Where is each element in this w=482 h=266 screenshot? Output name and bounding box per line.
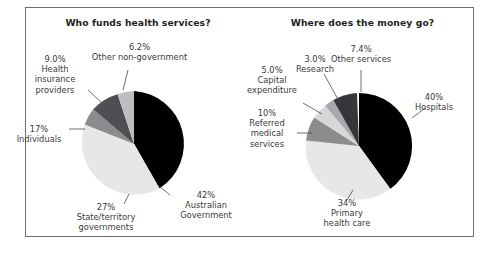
label-state-pct: 27%: [60, 202, 152, 212]
label-primary-pct: 34%: [305, 198, 389, 208]
label-research-pct: 3.0%: [290, 54, 340, 64]
label-individuals-pct: 17%: [10, 124, 68, 134]
label-referred-pct: 10%: [236, 108, 298, 118]
panel-where-does-the-money-go: Where does the money go?: [250, 8, 475, 236]
label-hospitals-name: Hospitals: [402, 102, 466, 112]
label-aust-gov-name-2: Government: [166, 210, 246, 220]
label-australian-government: 42% Australian Government: [166, 190, 246, 221]
label-capital-name-2: expenditure: [241, 85, 303, 95]
label-state-name-2: governments: [60, 222, 152, 232]
label-aust-gov-name-1: Australian: [166, 200, 246, 210]
label-referred-medical-services: 10% Referred medical services: [236, 108, 298, 149]
label-capital-pct: 5.0%: [241, 65, 303, 75]
figure-frame: Who funds health services?: [25, 7, 474, 237]
pie-slices-left: [82, 91, 184, 195]
pie-slices-right: [306, 93, 412, 199]
leader-line-research: [324, 74, 340, 103]
label-individuals: 17% Individuals: [10, 124, 68, 144]
label-aust-gov-pct: 42%: [166, 190, 246, 200]
label-other-non-government-pct: 6.2%: [62, 42, 217, 52]
label-health-insurance-providers: 9.0% Health insurance providers: [24, 54, 86, 95]
leader-line-health-insurance: [88, 90, 104, 105]
label-capital-expenditure: 5.0% Capital expenditure: [241, 65, 303, 96]
pie-chart-figure: Who funds health services?: [0, 0, 482, 266]
leader-line-capital-expenditure: [303, 103, 322, 114]
label-health-insurance-name-3: providers: [24, 85, 86, 95]
label-state-territory-governments: 27% State/territory governments: [60, 202, 152, 233]
panel-who-funds-health-services: Who funds health services?: [26, 8, 250, 236]
label-hospitals-pct: 40%: [402, 92, 466, 102]
label-primary-name-2: health care: [305, 218, 389, 228]
label-health-insurance-name-1: Health: [24, 64, 86, 74]
label-referred-name-3: services: [236, 139, 298, 149]
label-hospitals: 40% Hospitals: [402, 92, 466, 112]
label-referred-name-1: Referred: [236, 118, 298, 128]
label-other-services-pct: 7.4%: [316, 44, 406, 54]
leader-line-other-non-government: [123, 70, 128, 90]
label-individuals-name: Individuals: [10, 134, 68, 144]
label-primary-name-1: Primary: [305, 208, 389, 218]
label-capital-name-1: Capital: [241, 75, 303, 85]
label-health-insurance-name-2: insurance: [24, 74, 86, 84]
label-referred-name-2: medical: [236, 128, 298, 138]
label-state-name-1: State/territory: [60, 212, 152, 222]
label-health-insurance-pct: 9.0%: [24, 54, 86, 64]
label-primary-health-care: 34% Primary health care: [305, 198, 389, 229]
